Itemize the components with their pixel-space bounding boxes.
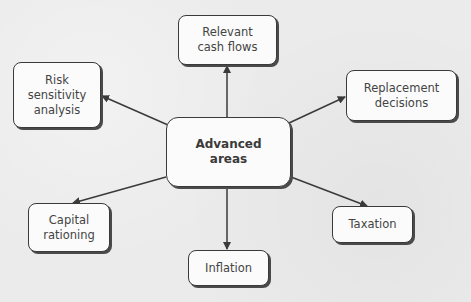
edge-advanced-replacement [289,97,345,123]
node-taxation: Taxation [332,206,413,243]
node-label-line: areas [195,152,261,167]
node-label-line: decisions [364,96,440,111]
node-capital-rationing: Capital rationing [28,203,110,252]
node-inflation: Inflation [188,250,269,286]
node-replacement-decisions: Replacement decisions [346,70,457,121]
edge-advanced-capital [73,177,166,203]
node-label-line: Risk [28,73,87,88]
node-label-line: Advanced [195,137,261,152]
node-label-line: Relevant [198,25,258,40]
node-label-line: Inflation [205,261,252,276]
edge-advanced-risk [102,96,168,125]
node-advanced-areas: Advanced areas [166,117,291,187]
node-label-line: Capital [43,213,95,228]
node-relevant-cash-flows: Relevant cash flows [178,15,277,65]
node-label-line: analysis [28,103,87,118]
node-label-line: cash flows [198,40,258,55]
node-label-line: sensitivity [28,88,87,103]
node-risk-sensitivity-analysis: Risk sensitivity analysis [13,62,101,128]
node-label-line: Taxation [348,217,396,232]
node-label-line: rationing [43,228,95,243]
node-label-line: Replacement [364,81,440,96]
edge-advanced-taxation [291,177,367,206]
